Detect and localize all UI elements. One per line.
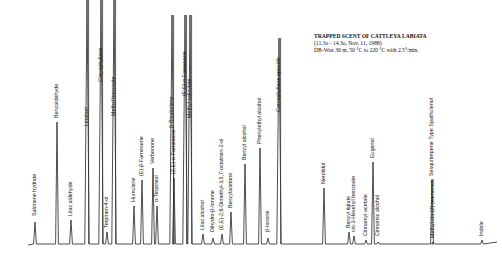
peak-label: Verbenone [149, 138, 155, 164]
chart-title: TRAPPED SCENT OF CATTLEYA LABIATA [314, 33, 427, 40]
chromatogram [0, 0, 502, 260]
peak-label: Methyl salicylate [186, 78, 192, 118]
peak-label: (Z,E)-α-Farnesene [170, 130, 176, 174]
peak-label: Benzylacetone [227, 173, 233, 208]
peak-label: Benzaldehyde [53, 84, 59, 118]
peak-label: (E)-β-Farnesene [138, 136, 144, 176]
peak-label: Indole [478, 221, 484, 236]
peak-label: Humulene [130, 177, 136, 202]
peak-label: Cinnamic alcohol [374, 195, 380, 236]
chart-title-block: TRAPPED SCENT OF CATTLEYA LABIATA (11.3o… [314, 33, 427, 54]
peak-label: Sabinene hydrate [31, 174, 37, 216]
peak-label: Eugenol [369, 138, 375, 158]
peak-label: β-Ionone [264, 211, 270, 232]
chromatogram-trace [28, 0, 497, 245]
chart-subtitle-date: (11.3o - 14.3o, Nov. 11, 1988) [314, 40, 427, 47]
peak-label: β-Bisabolene [168, 96, 174, 128]
peak-label: (E,E)-2,6-Dimethyl-3,5,7-octatrien-2-ol [218, 139, 224, 230]
peak-label: Benzyl alcohol [241, 125, 247, 160]
peak-label: Linalool [83, 107, 89, 126]
peak-label: Lilac aldehyde [67, 182, 73, 216]
peak-label: Nerolidol [320, 163, 326, 184]
peak-label: Lilac alcohol [199, 200, 205, 230]
peak-label: Methyl cis-(Z)-jasmonate [429, 179, 435, 238]
peak-label: Terpinen-4-ol [103, 197, 109, 228]
peak-label: Caryophyllene epoxide [275, 57, 281, 112]
peak-label: cis-3-Hexenyl benzoate [350, 176, 356, 232]
peak-label: Phenylethyl alcohol [256, 98, 262, 144]
peak-label: Caryophyllene [97, 48, 103, 82]
chart-subtitle-conditions: DB-Wax 30 m, 50 °C to 220 °C with 2.5°/m… [314, 47, 427, 54]
peak-label: Cinnamyl acetate [362, 194, 368, 236]
peak-label: α-Terpineol [153, 175, 159, 202]
peak-label: Sesquiterpene Type Spathulenol [428, 98, 434, 176]
peak-label: Dihydro-β-Ionone [209, 190, 215, 232]
peak-label: Methyl benzoate [110, 76, 116, 116]
